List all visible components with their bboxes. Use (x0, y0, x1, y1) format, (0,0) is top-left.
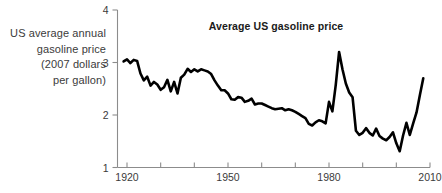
y-axis-caption-line-3: (2007 dollars (4, 57, 106, 73)
x-axis: 1920195019802010 (115, 163, 442, 183)
y-tick-label: 1 (103, 162, 109, 174)
y-axis-caption-line-2: gasoline price (4, 42, 106, 58)
gasoline-price-figure: US average annual gasoline price (2007 d… (0, 0, 442, 193)
y-tick-label: 2 (103, 109, 109, 121)
x-tick-label: 1980 (317, 171, 341, 183)
data-line (124, 52, 424, 151)
y-axis-caption-line-1: US average annual (4, 26, 106, 42)
chart-title: Average US gasoline price (196, 20, 356, 32)
data-series-group (124, 52, 424, 151)
y-tick-label: 4 (103, 4, 109, 16)
y-axis-caption: US average annual gasoline price (2007 d… (4, 26, 106, 88)
y-axis-caption-line-4: per gallon) (4, 73, 106, 89)
x-tick-label: 1950 (216, 171, 240, 183)
x-tick-label: 2010 (418, 171, 442, 183)
x-tick-label: 1920 (115, 171, 139, 183)
